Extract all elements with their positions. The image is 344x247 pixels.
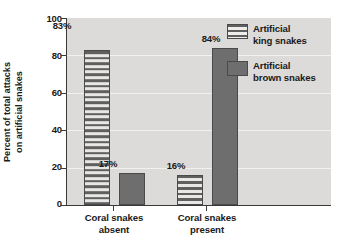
- legend-swatch-striped-icon: [227, 24, 248, 39]
- y-tick-label-40: 40: [36, 124, 62, 135]
- y-axis-title-line-1: Percent of total attacks: [2, 62, 14, 162]
- bar-value-king-absent: 83%: [12, 20, 112, 31]
- bar-king-snakes-absent: [84, 50, 110, 205]
- x-tick-mark-present: [206, 206, 207, 211]
- legend-label-brown-snakes-line-1: Artificial: [253, 60, 316, 72]
- x-tick-mark-absent: [113, 206, 114, 211]
- y-tick-label-60: 60: [36, 87, 62, 98]
- legend-label-king-snakes-line-1: Artificial: [253, 23, 307, 35]
- y-axis-title-line-2: on artificial snakes: [13, 62, 25, 162]
- y-axis-title: Percent of total attacks on artificial s…: [0, 18, 26, 206]
- x-axis-label-present-line-2: present: [152, 224, 262, 236]
- bar-chart: Percent of total attacks on artificial s…: [0, 0, 344, 247]
- bar-king-snakes-present: [177, 175, 203, 205]
- y-axis-title-text: Percent of total attacks on artificial s…: [2, 62, 25, 162]
- y-tick-label-0: 0: [36, 198, 62, 209]
- bar-value-king-present: 16%: [149, 160, 203, 171]
- bar-value-brown-absent: 17%: [81, 158, 135, 169]
- x-axis-label-present: Coral snakes present: [152, 212, 262, 235]
- legend-label-brown-snakes-line-2: brown snakes: [253, 72, 316, 84]
- legend-swatch-solid-icon: [227, 61, 248, 76]
- plot-area: [66, 18, 331, 206]
- y-tick-label-20: 20: [36, 161, 62, 172]
- legend-label-king-snakes-line-2: king snakes: [253, 35, 307, 47]
- legend-label-king-snakes: Artificial king snakes: [253, 23, 307, 46]
- y-tick-label-80: 80: [36, 50, 62, 61]
- bar-brown-snakes-absent: [119, 173, 145, 205]
- legend-label-brown-snakes: Artificial brown snakes: [253, 60, 316, 83]
- x-axis-label-present-line-1: Coral snakes: [152, 212, 262, 224]
